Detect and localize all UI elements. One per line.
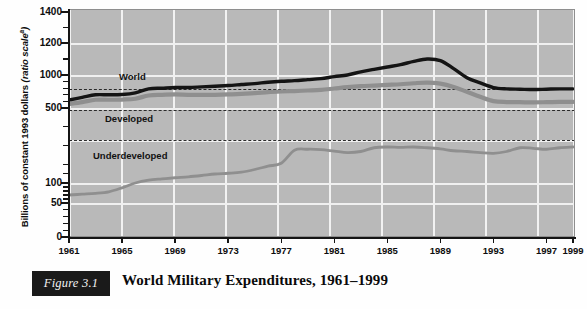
y-axis-tick-minor [63,81,69,82]
x-axis-tick [121,237,122,243]
y-axis-tick-minor [63,194,69,195]
x-axis-tick [227,237,228,243]
x-axis-tick [572,237,573,243]
y-axis-tick-label: 50 [26,197,62,208]
figure-caption: Figure 3.1 World Military Expenditures, … [0,263,587,309]
y-axis-tick-minor [63,94,69,95]
figure-panel: Billions of constant 1993 dollars (ratio… [0,0,587,309]
y-axis-tick-minor [63,101,69,102]
y-axis-tick-minor [63,230,69,231]
y-axis-tick-minor [63,164,69,165]
y-axis-tick-label: 500 [26,102,62,113]
y-axis-tick-minor [63,58,69,59]
x-axis-tick-label: 1989 [420,245,460,256]
y-axis-tick-major [61,107,69,109]
x-axis-tick-label: 1969 [155,245,195,256]
x-axis-line [68,237,576,239]
y-axis-title-italic-close: ) [19,27,30,30]
series-label-developed: Developed [105,113,153,124]
figure-title: World Military Expenditures, 1961–1999 [122,272,388,289]
x-axis-tick [546,237,547,243]
x-axis-tick [334,237,335,243]
x-axis-tick-label: 1961 [49,245,89,256]
figure-number-box: Figure 3.1 [32,271,110,296]
y-axis-tick-minor [63,88,69,89]
y-axis-tick-major [61,182,69,184]
x-axis-tick-label: 1977 [261,245,301,256]
series-label-world: World [119,71,146,82]
y-axis-tick-label: 1400 [26,6,62,17]
x-axis-tick-label: 1999 [553,245,587,256]
x-axis-tick [68,237,69,243]
x-axis-tick-label: 1985 [367,245,407,256]
developed-line-path [69,83,573,104]
y-axis-title-footnote-marker: a [18,30,25,34]
y-axis-tick-minor [63,209,69,210]
y-axis-tick-minor [63,27,69,28]
y-axis-tick-minor [63,216,69,217]
y-axis-tick-label: 1200 [26,37,62,48]
y-axis-tick-minor [63,126,69,127]
y-axis-tick-major [61,74,69,76]
x-axis-tick [440,237,441,243]
x-axis-tick [281,237,282,243]
y-axis-tick-minor [63,198,69,199]
y-axis-tick-major [61,202,69,204]
y-axis-tick-major [61,42,69,44]
x-axis-tick [174,237,175,243]
x-axis-tick [493,237,494,243]
y-axis-tick-major [61,11,69,13]
series-label-underdeveloped: Underdeveloped [93,150,167,161]
y-axis-tick-minor [63,173,69,174]
y-axis-tick-label: 1000 [26,69,62,80]
y-axis-tick-minor [63,223,69,224]
y-axis-tick-label: 0 [26,231,62,242]
x-axis-tick-label: 1965 [102,245,142,256]
figure-number-label: Figure 3.1 [32,271,110,296]
x-axis-tick-label: 1981 [314,245,354,256]
x-axis-tick [387,237,388,243]
y-axis-tick-label: 100 [26,177,62,188]
y-axis-tick-minor [63,145,69,146]
x-axis-tick-label: 1993 [473,245,513,256]
x-axis-tick-label: 1973 [208,245,248,256]
y-axis-tick-minor [63,186,69,187]
y-axis-tick-minor [63,190,69,191]
plot-area: World Developed Underdeveloped [69,9,575,237]
